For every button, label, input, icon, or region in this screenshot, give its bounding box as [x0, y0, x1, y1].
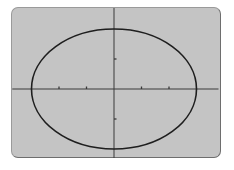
axes	[12, 8, 218, 158]
graph-plot	[0, 0, 234, 170]
